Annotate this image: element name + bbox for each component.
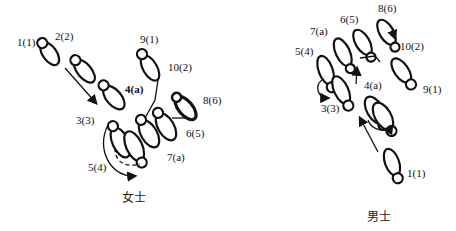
- step-label: 9(1): [140, 34, 158, 45]
- footprint-9: [388, 55, 420, 93]
- footprint-6: [349, 27, 379, 65]
- footprint-2: [67, 52, 99, 86]
- step-label: 10(2): [400, 41, 424, 52]
- step-label: 5(4): [295, 46, 313, 57]
- step-label: 3(3): [321, 103, 339, 114]
- step-label: 7(a): [310, 26, 328, 37]
- step-label: 8(6): [203, 95, 221, 106]
- step-label: 9(1): [423, 84, 441, 95]
- step-label: 8(6): [378, 3, 396, 14]
- step-label: 4(a): [364, 80, 382, 91]
- path-arrow: [356, 68, 357, 84]
- footprint-1: [381, 147, 406, 186]
- caption-woman: 女士: [122, 192, 146, 204]
- step-label: 10(2): [168, 62, 192, 73]
- step-label: 7(a): [167, 152, 185, 163]
- footprint-4: [95, 77, 129, 113]
- step-label: 1(1): [407, 168, 425, 179]
- footprint-9: [133, 46, 163, 83]
- step-label: 3(3): [76, 115, 94, 126]
- step-label: 6(5): [340, 14, 358, 25]
- step-label: 1(1): [17, 37, 35, 48]
- caption-man: 男士: [367, 211, 391, 223]
- step-label: 5(4): [88, 162, 106, 173]
- step-label: 2(2): [55, 31, 73, 42]
- step-label: 4(a): [125, 84, 143, 95]
- step-label: 6(5): [186, 128, 204, 139]
- footprint-8: [373, 17, 403, 55]
